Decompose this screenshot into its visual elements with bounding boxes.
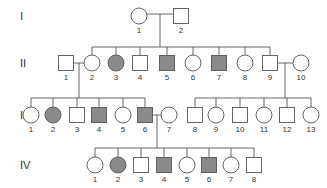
female-symbol xyxy=(179,157,195,173)
male-symbol xyxy=(188,108,203,123)
individual-number: 5 xyxy=(165,73,170,82)
female-symbol xyxy=(237,55,253,71)
male-symbol xyxy=(233,108,248,123)
individual-number: 4 xyxy=(162,175,167,184)
individual-number: 7 xyxy=(229,175,234,184)
individual-number: 10 xyxy=(297,73,306,82)
female-symbol xyxy=(161,107,177,123)
female-symbol xyxy=(84,55,100,71)
individuals: 12123456789101234567891011121312345678 xyxy=(23,8,319,184)
individual-number: 8 xyxy=(243,73,248,82)
female-symbol xyxy=(223,157,239,173)
affected-male-symbol xyxy=(212,56,227,71)
individual-number: 3 xyxy=(75,125,80,134)
individual-number: 5 xyxy=(185,175,190,184)
individual-number: 7 xyxy=(217,73,222,82)
individual-number: 6 xyxy=(143,125,148,134)
individual-number: 3 xyxy=(114,73,119,82)
individual-number: 7 xyxy=(167,125,172,134)
male-symbol xyxy=(133,56,148,71)
female-symbol xyxy=(208,107,224,123)
female-symbol xyxy=(131,8,147,24)
male-symbol xyxy=(280,108,295,123)
generation-label: I xyxy=(20,10,23,22)
generation-label: II xyxy=(20,57,26,69)
individual-number: 6 xyxy=(207,175,212,184)
generation-label: IV xyxy=(20,159,31,171)
individual-number: 4 xyxy=(138,73,143,82)
individual-number: 1 xyxy=(29,125,34,134)
affected-male-symbol xyxy=(138,108,153,123)
individual-number: 8 xyxy=(193,125,198,134)
affected-female-symbol xyxy=(45,107,61,123)
affected-female-symbol xyxy=(108,55,124,71)
individual-number: 1 xyxy=(64,73,69,82)
individual-number: 2 xyxy=(179,26,184,35)
individual-number: 1 xyxy=(93,175,98,184)
affected-male-symbol xyxy=(157,158,172,173)
individual-number: 3 xyxy=(139,175,144,184)
individual-number: 12 xyxy=(283,125,292,134)
female-symbol xyxy=(87,157,103,173)
individual-number: 4 xyxy=(97,125,102,134)
female-symbol xyxy=(303,107,319,123)
male-symbol xyxy=(174,9,189,24)
affected-male-symbol xyxy=(160,56,175,71)
individual-number: 2 xyxy=(116,175,121,184)
affected-female-symbol xyxy=(110,157,126,173)
male-symbol xyxy=(59,56,74,71)
male-symbol xyxy=(134,158,149,173)
individual-number: 11 xyxy=(260,125,269,134)
female-symbol xyxy=(256,107,272,123)
female-symbol xyxy=(293,55,309,71)
pedigree-lines xyxy=(31,14,311,157)
individual-number: 1 xyxy=(137,26,142,35)
female-symbol xyxy=(115,107,131,123)
individual-number: 5 xyxy=(121,125,126,134)
male-symbol xyxy=(263,56,278,71)
individual-number: 13 xyxy=(307,125,316,134)
affected-male-symbol xyxy=(202,158,217,173)
pedigree-chart: IIIIIIIV 1212345678910123456789101112131… xyxy=(0,0,327,188)
generation-labels: IIIIIIIV xyxy=(20,10,31,171)
female-symbol xyxy=(23,107,39,123)
individual-number: 9 xyxy=(214,125,219,134)
individual-number: 2 xyxy=(51,125,56,134)
male-symbol xyxy=(70,108,85,123)
individual-number: 9 xyxy=(268,73,273,82)
individual-number: 10 xyxy=(236,125,245,134)
individual-number: 8 xyxy=(252,175,257,184)
female-symbol xyxy=(185,55,201,71)
affected-male-symbol xyxy=(92,108,107,123)
male-symbol xyxy=(247,158,262,173)
individual-number: 2 xyxy=(90,73,95,82)
individual-number: 6 xyxy=(191,73,196,82)
